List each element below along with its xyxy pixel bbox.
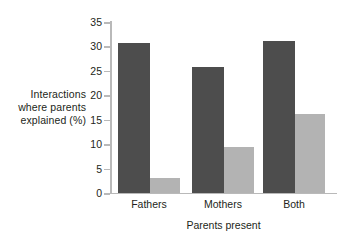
y-tick-20 <box>104 95 110 97</box>
y-axis-tick-labels: 05101520253035 <box>78 0 102 250</box>
x-category-label-both: Both <box>283 198 305 210</box>
bar-mothers-light <box>224 147 254 193</box>
y-axis-title: Interactions where parents explained (%) <box>2 88 86 127</box>
bar-chart: Interactions where parents explained (%)… <box>0 0 343 250</box>
y-axis-title-line-2: where parents <box>2 101 86 114</box>
y-tick-label-20: 20 <box>80 89 102 101</box>
y-tick-10 <box>104 144 110 146</box>
y-tick-label-10: 10 <box>80 138 102 150</box>
y-tick-0 <box>104 193 110 195</box>
bar-fathers-dark <box>118 43 150 193</box>
y-tick-label-25: 25 <box>80 65 102 77</box>
bar-mothers-dark <box>192 67 224 193</box>
y-tick-label-15: 15 <box>80 114 102 126</box>
bar-fathers-light <box>150 178 180 193</box>
y-tick-15 <box>104 120 110 122</box>
y-axis-line <box>110 21 112 194</box>
y-tick-label-0: 0 <box>80 187 102 199</box>
x-category-label-mothers: Mothers <box>204 198 242 210</box>
y-tick-25 <box>104 71 110 73</box>
x-category-label-fathers: Fathers <box>131 198 167 210</box>
bar-both-dark <box>263 41 295 193</box>
y-tick-5 <box>104 169 110 171</box>
bar-both-light <box>295 114 325 193</box>
y-tick-label-30: 30 <box>80 40 102 52</box>
y-tick-35 <box>104 22 110 24</box>
y-tick-label-35: 35 <box>80 16 102 28</box>
y-axis-title-line-1: Interactions <box>2 88 86 101</box>
x-axis-title: Parents present <box>110 219 337 231</box>
y-axis-title-line-3: explained (%) <box>2 114 86 127</box>
y-tick-label-5: 5 <box>80 163 102 175</box>
y-tick-30 <box>104 46 110 48</box>
